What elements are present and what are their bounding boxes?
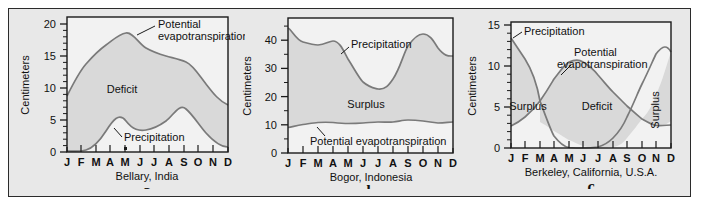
precipitation-label-c: Precipitation <box>524 25 585 37</box>
x-month-label: N <box>652 152 660 164</box>
x-month-label: J <box>375 157 381 169</box>
y-tick-label: 0 <box>50 146 56 158</box>
panel-a-svg: 0 5 10 15 20 Centimeters <box>9 0 245 189</box>
x-month-label: S <box>180 156 187 168</box>
x-month-label: M <box>91 156 100 168</box>
x-month-label: M <box>343 157 352 169</box>
x-month-label: N <box>209 156 217 168</box>
x-month-label: F <box>522 152 529 164</box>
x-month-label: M <box>535 152 544 164</box>
y-tick-label: 5 <box>50 114 56 126</box>
x-month-label: J <box>360 157 366 169</box>
y-axis-title-b: Centimeters <box>241 56 253 116</box>
x-month-label: D <box>667 152 675 164</box>
x-month-label: J <box>151 156 157 168</box>
x-month-label: J <box>508 152 514 164</box>
y-axis-title-a: Centimeters <box>19 55 31 115</box>
y-tick-label: 20 <box>265 91 277 103</box>
x-month-label: O <box>419 157 428 169</box>
potential-evapotranspiration-label-c-line2: evapotranspiration <box>557 58 648 70</box>
panel-b-svg: 0 10 20 30 40 Centimeters J <box>239 0 471 189</box>
potential-evapotranspiration-label-a-line1: Potential <box>158 18 201 30</box>
deficit-region-label-a: Deficit <box>107 83 138 95</box>
x-month-label: A <box>165 156 173 168</box>
precipitation-label-b: Precipitation <box>351 38 412 50</box>
y-axis-a <box>60 24 67 152</box>
axis-marker-dot-a <box>124 147 127 150</box>
surplus-region-label-b: Surplus <box>347 98 385 110</box>
y-tick-label: 0 <box>494 142 500 154</box>
panel-c-svg: 0 5 10 15 Centimeters J F <box>466 0 703 189</box>
y-tick-label: 30 <box>265 62 277 74</box>
y-tick-label: 5 <box>494 101 500 113</box>
x-month-label: O <box>194 156 203 168</box>
x-month-label: S <box>623 152 630 164</box>
precipitation-label-a: Precipitation <box>124 131 185 143</box>
panel-caption-b: Bogor, Indonesia <box>330 171 413 183</box>
x-month-label: J <box>137 156 143 168</box>
x-month-label: O <box>638 152 647 164</box>
surplus-region-label-right-c: Surplus <box>649 91 661 129</box>
x-month-label: M <box>120 156 129 168</box>
y-tick-label: 15 <box>488 19 500 31</box>
x-month-label: J <box>64 156 70 168</box>
surplus-region-label-left-c: Surplus <box>509 100 547 112</box>
figure-root: 0 5 10 15 20 Centimeters <box>0 0 703 213</box>
x-month-label: M <box>313 157 322 169</box>
x-month-label: F <box>78 156 85 168</box>
potential-evapotranspiration-label-b: Potential evapotranspiration <box>310 135 446 147</box>
y-axis-b <box>281 26 288 153</box>
panel-b: 0 10 20 30 40 Centimeters J <box>239 0 471 189</box>
panel-caption-a: Bellary, India <box>116 170 180 182</box>
x-month-label: S <box>404 157 411 169</box>
y-axis-c <box>504 25 511 148</box>
y-tick-label: 10 <box>488 60 500 72</box>
potential-evapotranspiration-label-a-line2: evapotranspiration <box>158 30 245 42</box>
x-month-label: A <box>106 156 114 168</box>
panel-a: 0 5 10 15 20 Centimeters <box>9 0 245 189</box>
x-month-label: A <box>550 152 558 164</box>
x-month-label: J <box>580 152 586 164</box>
y-tick-label: 10 <box>265 119 277 131</box>
y-tick-label: 0 <box>271 147 277 159</box>
x-month-label: A <box>389 157 397 169</box>
x-month-label: J <box>595 152 601 164</box>
y-tick-label: 10 <box>44 82 56 94</box>
x-month-label: A <box>609 152 617 164</box>
x-month-label: M <box>564 152 573 164</box>
x-month-label: D <box>449 157 457 169</box>
panel-caption-c: Berkeley, California, U.S.A. <box>525 166 657 178</box>
y-tick-label: 20 <box>44 18 56 30</box>
deficit-region-label-c: Deficit <box>582 100 613 112</box>
panel-c: 0 5 10 15 Centimeters J F <box>466 0 703 189</box>
y-tick-label: 40 <box>265 34 277 46</box>
x-month-label: D <box>224 156 232 168</box>
x-month-label: J <box>285 157 291 169</box>
x-month-label: N <box>434 157 442 169</box>
x-month-label: F <box>300 157 307 169</box>
y-axis-title-c: Centimeters <box>466 56 478 116</box>
y-tick-label: 15 <box>44 50 56 62</box>
x-month-label: A <box>329 157 337 169</box>
potential-evapotranspiration-label-c-line1: Potential <box>574 46 617 58</box>
